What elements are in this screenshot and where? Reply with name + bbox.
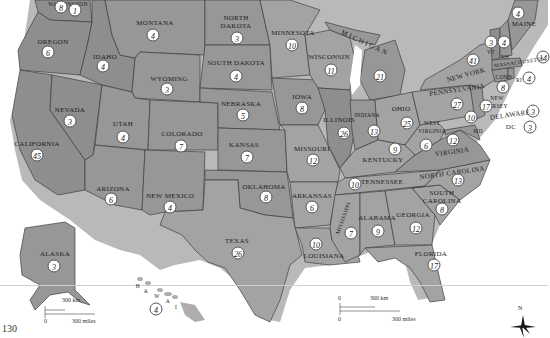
badge-georgia: 12 [410,222,423,235]
badge-oklahoma: 8 [260,191,273,204]
label-nevada: NEVADA [55,106,85,114]
label-alabama: ALABAMA [358,214,396,222]
state-south-dakota [200,45,272,90]
badge-delaware: 3 [527,105,540,118]
badge-iowa: 8 [296,102,309,115]
badge-west-virginia: 6 [420,139,433,152]
label-kentucky: KENTUCKY [363,156,404,164]
label-hawaii-i: I [175,303,177,311]
compass-rose-icon [510,315,536,338]
label-minnesota: MINNESOTA [271,29,314,37]
main-scale-miles: 300 miles [392,316,416,322]
label-new-hampshire: NH [501,53,510,61]
badge-north-dakota: 3 [231,32,244,45]
label-indiana: INDIANA [354,111,380,119]
badge-oregon: 6 [42,46,55,59]
badge-arkansas: 6 [306,201,319,214]
badge-south-carolina: 8 [436,203,449,216]
badge-virginia: 12 [447,134,460,147]
label-oregon: OREGON [38,38,69,46]
badge-michigan: 21 [374,70,387,83]
badge-washington-1: 8 [55,1,68,14]
label-hawaii-h: H [136,282,140,290]
label-arkansas: ARKANSAS [292,192,332,200]
badge-utah: 4 [117,131,130,144]
badge-tennessee: 10 [349,178,362,191]
badge-illinois: 26 [338,127,351,140]
label-iowa: IOWA [292,93,311,101]
label-colorado: COLORADO [161,130,202,138]
label-north-dakota: NORTH DAKOTA [216,14,256,30]
label-dc: DC [506,123,516,131]
label-louisiana: LOUISIANA [304,252,345,260]
badge-wisconsin: 11 [325,64,338,77]
badge-california: 45 [31,149,44,162]
latitude-line [0,285,548,286]
alaska-scale-miles: 300 miles [72,318,96,324]
badge-rhode-island: 4 [523,72,536,85]
badge-florida: 17 [428,259,441,272]
badge-new-hampshire: 4 [498,36,511,49]
badge-washington-2: 1 [69,4,82,17]
label-arizona: ARIZONA [96,185,130,193]
badge-dc: 3 [524,121,537,134]
badge-nebraska: 5 [237,109,250,122]
badge-alabama: 9 [372,225,385,238]
badge-new-mexico: 4 [164,201,177,214]
badge-wyoming: 3 [161,83,174,96]
badge-maryland: 10 [465,111,478,124]
label-texas: TEXAS [225,237,249,245]
badge-connecticut: 8 [497,81,510,94]
badge-new-york: 41 [467,54,480,67]
label-alaska: ALASKA [40,250,70,258]
label-hawaii-a2: A [166,297,170,305]
label-vermont: VT [487,48,495,56]
label-wisconsin: WISCONSIN [308,53,350,61]
badge-south-dakota: 4 [230,70,243,83]
label-new-mexico: NEW MEXICO [146,192,194,200]
badge-new-jersey: 17 [480,100,493,113]
alaska-scale-zero: 0 [44,318,47,324]
badge-alaska: 3 [48,260,61,273]
longitude-label: 130 [2,323,17,334]
compass-north-label: N [518,305,522,311]
badge-arizona: 6 [105,193,118,206]
badge-montana: 4 [147,29,160,42]
main-scale-zero-km: 0 [338,295,341,301]
badge-pennsylvania: 27 [451,98,464,111]
state-hawaii [137,277,205,322]
label-wyoming: WYOMING [150,75,187,83]
badge-mississippi: 7 [345,227,358,240]
label-california: CALIFORNIA [14,140,59,148]
label-montana: MONTANA [136,19,173,27]
main-scale-zero-mi: 0 [338,316,341,322]
badge-kentucky: 9 [389,143,402,156]
badge-texas: 26 [232,247,245,260]
badge-indiana: 13 [368,125,381,138]
state-kansas [218,128,287,172]
label-west-virginia: WEST VIRGINIA [418,119,446,135]
label-maryland: MD [473,127,482,135]
label-tennessee: TENNESSEE [361,178,403,186]
label-maine: MAINE [512,20,536,28]
label-nebraska: NEBRASKA [221,100,261,108]
main-scale-km: 300 km [370,295,388,301]
label-illinois: ILLINOIS [323,116,355,124]
badge-massachusetts: 14 [537,51,550,64]
alaska-scale-bar [45,306,95,318]
badge-missouri: 12 [307,154,320,167]
label-kansas: KANSAS [229,141,259,149]
badge-kansas: 7 [241,151,254,164]
label-utah: UTAH [113,120,133,128]
label-south-dakota: SOUTH DAKOTA [207,59,265,67]
badge-hawaii: 4 [150,303,163,316]
badge-minnesota: 10 [286,39,299,52]
label-ohio: OHIO [392,105,411,113]
label-hawaii-a: A [144,287,148,295]
label-georgia: GEORGIA [396,211,430,219]
alaska-scale-km: 300 km [62,297,80,303]
badge-north-carolina: 13 [452,174,465,187]
badge-nevada: 3 [64,115,77,128]
badge-ohio: 25 [401,117,414,130]
badge-idaho: 4 [97,60,110,73]
